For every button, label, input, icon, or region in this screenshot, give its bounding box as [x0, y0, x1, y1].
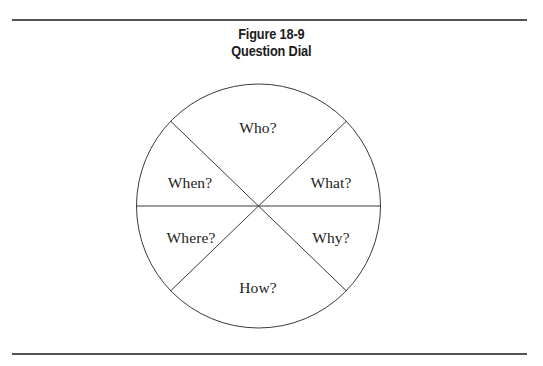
- dial-label-who: Who?: [239, 119, 276, 137]
- dial-label-where: Where?: [167, 229, 216, 247]
- bottom-divider-rule: [12, 353, 527, 355]
- dial-label-what: What?: [311, 174, 352, 192]
- dial-label-why: Why?: [312, 229, 349, 247]
- dial-label-how: How?: [239, 279, 276, 297]
- figure-page: Figure 18-9 Question Dial Who? What? Why…: [0, 0, 543, 366]
- question-dial-diagram: Who? What? Why? How? Where? When?: [0, 0, 543, 366]
- dial-label-when: When?: [168, 174, 212, 192]
- question-dial-svg: [0, 0, 543, 366]
